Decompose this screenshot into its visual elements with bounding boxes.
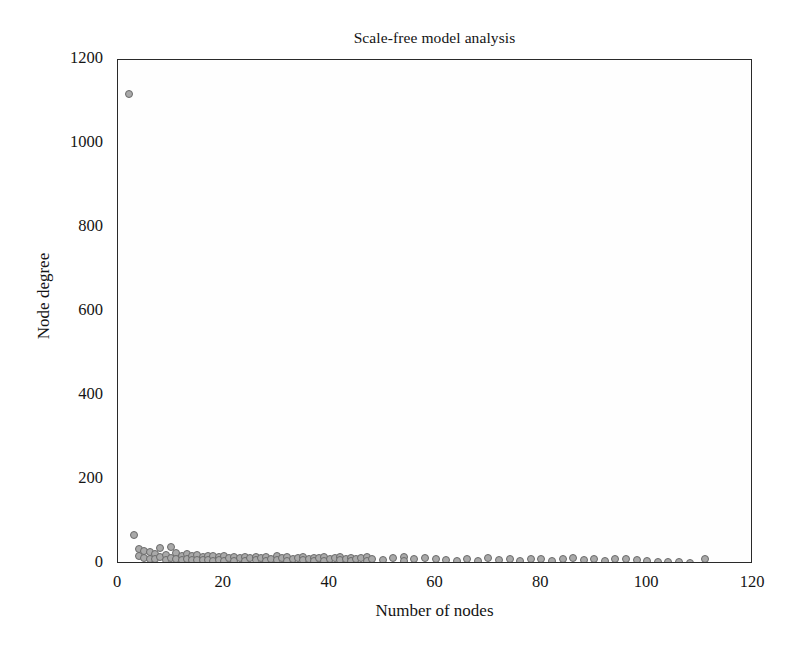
scatter-point bbox=[675, 558, 683, 562]
scatter-point bbox=[463, 555, 471, 562]
plot-frame bbox=[117, 59, 752, 563]
y-tick-label: 1200 bbox=[0, 48, 103, 68]
scatter-point bbox=[421, 554, 429, 562]
scatter-point bbox=[601, 557, 609, 562]
x-tick-label: 20 bbox=[183, 572, 263, 592]
x-tick-label: 80 bbox=[500, 572, 580, 592]
scatter-point bbox=[527, 555, 535, 562]
y-tick-label: 800 bbox=[0, 216, 103, 236]
scatter-point bbox=[495, 556, 503, 562]
y-tick-label: 600 bbox=[0, 300, 103, 320]
scatter-point bbox=[559, 555, 567, 562]
y-tick-label: 0 bbox=[0, 552, 103, 572]
scatter-point bbox=[474, 557, 482, 562]
scatter-point bbox=[506, 555, 514, 562]
chart-figure: Scale-free model analysis Node degree Nu… bbox=[0, 0, 797, 651]
scatter-point bbox=[701, 555, 709, 562]
scatter-point bbox=[569, 554, 577, 562]
y-tick-label: 200 bbox=[0, 468, 103, 488]
x-tick-label: 40 bbox=[289, 572, 369, 592]
scatter-point bbox=[611, 555, 619, 562]
y-tick-label: 400 bbox=[0, 384, 103, 404]
scatter-point bbox=[400, 557, 408, 562]
scatter-point bbox=[442, 556, 450, 562]
scatter-point bbox=[580, 556, 588, 562]
scatter-point bbox=[379, 556, 387, 562]
y-axis-label: Node degree bbox=[34, 216, 54, 376]
scatter-point bbox=[686, 559, 694, 562]
scatter-point bbox=[537, 555, 545, 562]
scatter-point bbox=[654, 558, 662, 562]
scatter-plot-area bbox=[118, 60, 751, 562]
scatter-point bbox=[484, 554, 492, 562]
x-axis-label: Number of nodes bbox=[117, 601, 752, 621]
scatter-point bbox=[633, 556, 641, 562]
x-tick-label: 120 bbox=[712, 572, 792, 592]
scatter-point bbox=[590, 555, 598, 562]
scatter-point bbox=[368, 555, 376, 562]
scatter-point bbox=[130, 531, 138, 539]
scatter-point bbox=[664, 558, 672, 562]
chart-title: Scale-free model analysis bbox=[117, 29, 752, 47]
scatter-point bbox=[453, 557, 461, 562]
scatter-point bbox=[548, 557, 556, 562]
scatter-point bbox=[410, 555, 418, 562]
scatter-point bbox=[389, 554, 397, 562]
scatter-point bbox=[622, 555, 630, 562]
scatter-point bbox=[432, 555, 440, 562]
scatter-point bbox=[516, 557, 524, 562]
x-tick-label: 60 bbox=[395, 572, 475, 592]
x-tick-label: 0 bbox=[77, 572, 157, 592]
y-tick-label: 1000 bbox=[0, 132, 103, 152]
scatter-point bbox=[125, 90, 133, 98]
scatter-point bbox=[643, 557, 651, 562]
x-tick-label: 100 bbox=[606, 572, 686, 592]
